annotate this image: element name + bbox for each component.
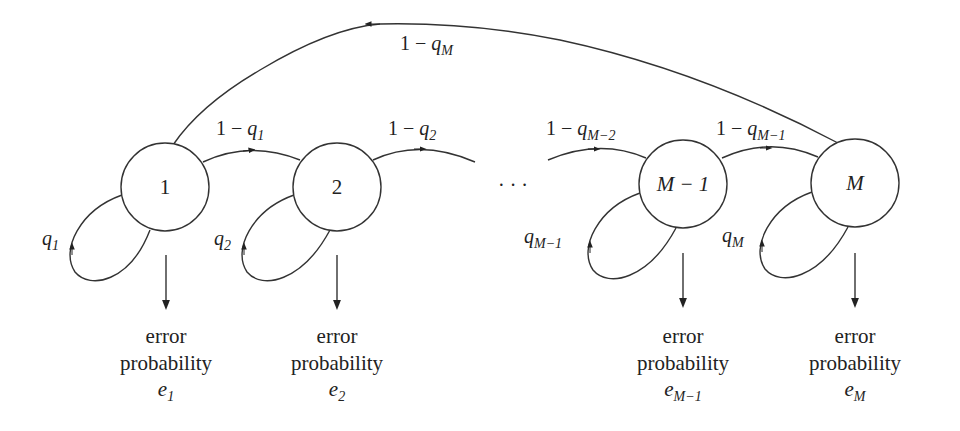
- forward-edge-M1-M: 1 − qM−1: [716, 117, 818, 158]
- return-edge-label: 1 − qM: [400, 32, 454, 58]
- markov-chain-diagram: 1 − qM 1 − q1 1 − q2 1 − qM−2 1 − qM−1 ·…: [0, 0, 960, 431]
- node-2: 2: [293, 143, 381, 231]
- svg-text:M − 1: M − 1: [656, 172, 710, 196]
- forward-edge-2-next: 1 − q2: [373, 117, 475, 162]
- svg-text:M: M: [845, 171, 865, 195]
- svg-text:1 − q2: 1 − q2: [388, 117, 436, 143]
- svg-text:error: error: [835, 324, 876, 348]
- output-M: error probability eM: [809, 253, 902, 404]
- svg-text:qM: qM: [722, 224, 745, 250]
- diagram-svg: 1 − qM 1 − q1 1 − q2 1 − qM−2 1 − qM−1 ·…: [0, 0, 960, 431]
- svg-text:q2: q2: [214, 227, 231, 253]
- svg-text:probability: probability: [637, 351, 730, 375]
- node-1: 1: [121, 143, 209, 231]
- svg-text:1 − qM−1: 1 − qM−1: [716, 117, 785, 143]
- forward-edge-prev-M1: 1 − qM−2: [546, 117, 646, 160]
- svg-text:1 − qM−2: 1 − qM−2: [546, 117, 615, 143]
- output-1: error probability e1: [120, 255, 213, 404]
- node-M: M: [811, 139, 899, 227]
- svg-text:2: 2: [332, 175, 343, 199]
- svg-text:eM−1: eM−1: [664, 377, 701, 404]
- forward-edge-1-2: 1 − q1: [203, 117, 300, 162]
- svg-text:1 − q1: 1 − q1: [216, 117, 264, 143]
- output-2: error probability e2: [291, 255, 384, 404]
- ellipsis: · · ·: [498, 174, 528, 196]
- svg-text:qM−1: qM−1: [524, 225, 562, 251]
- svg-text:q1: q1: [42, 227, 59, 253]
- output-M-minus-1: error probability eM−1: [637, 253, 730, 404]
- svg-text:probability: probability: [120, 351, 213, 375]
- node-M-minus-1: M − 1: [639, 140, 727, 228]
- svg-text:error: error: [663, 324, 704, 348]
- svg-text:e1: e1: [158, 377, 174, 404]
- svg-text:probability: probability: [809, 351, 902, 375]
- svg-text:eM: eM: [845, 377, 867, 404]
- svg-text:probability: probability: [291, 351, 384, 375]
- svg-text:1: 1: [160, 175, 171, 199]
- svg-text:e2: e2: [329, 377, 345, 404]
- svg-text:error: error: [317, 324, 358, 348]
- svg-text:error: error: [146, 324, 187, 348]
